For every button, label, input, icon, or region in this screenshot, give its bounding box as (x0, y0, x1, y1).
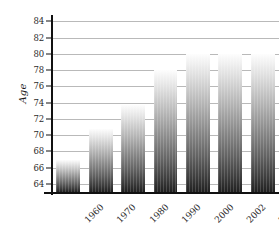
y-axis-tick-label: 68 (22, 147, 44, 156)
y-axis-tick-label: 70 (22, 131, 44, 140)
x-axis-tick-labels: 1960197019801990200020022003 (52, 194, 279, 244)
x-axis-tick-label: 1960 (82, 202, 105, 225)
y-axis-tick-labels: 6466687072747678808284 (22, 0, 44, 244)
bar (121, 105, 145, 192)
y-axis-tick-label: 84 (22, 17, 44, 26)
bar (186, 54, 210, 192)
bar (154, 70, 178, 192)
y-axis-tick-label: 72 (22, 115, 44, 124)
bar-chart: Age 6466687072747678808284 1960197019801… (0, 0, 279, 244)
y-axis-tick-label: 66 (22, 163, 44, 172)
bars-group (52, 18, 279, 192)
y-axis-tick-label: 64 (22, 180, 44, 189)
y-axis-tick-label: 78 (22, 66, 44, 75)
x-axis-tick-label: 1980 (147, 202, 170, 225)
y-axis-tick-label: 76 (22, 82, 44, 91)
y-axis-tick-label: 80 (22, 50, 44, 59)
bar (89, 129, 113, 192)
x-axis-tick-label: 1970 (115, 202, 138, 225)
bar (218, 54, 242, 192)
y-axis-tick-label: 82 (22, 33, 44, 42)
x-axis-tick-label: 1990 (180, 202, 203, 225)
bar (251, 54, 275, 192)
y-axis-tick-label: 74 (22, 98, 44, 107)
x-axis-tick-label: 2002 (245, 202, 268, 225)
x-axis-tick-label: 2003 (277, 202, 279, 225)
y-axis-line (51, 15, 53, 195)
bar (56, 160, 80, 192)
x-axis-tick-label: 2000 (212, 202, 235, 225)
